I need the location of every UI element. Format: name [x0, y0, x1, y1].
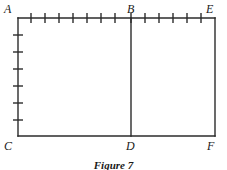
figure-page: A B E C D F Figure 7: [0, 0, 227, 170]
vertex-label-B: B: [127, 3, 134, 15]
figure-edges-group: [18, 18, 215, 136]
geometry-figure: [0, 0, 227, 170]
vertex-label-C: C: [4, 140, 12, 152]
vertex-label-E: E: [206, 3, 213, 15]
vertex-label-F: F: [207, 140, 214, 152]
figure-caption: Figure 7: [0, 159, 227, 170]
vertex-label-A: A: [4, 3, 11, 15]
vertex-label-D: D: [126, 140, 135, 152]
